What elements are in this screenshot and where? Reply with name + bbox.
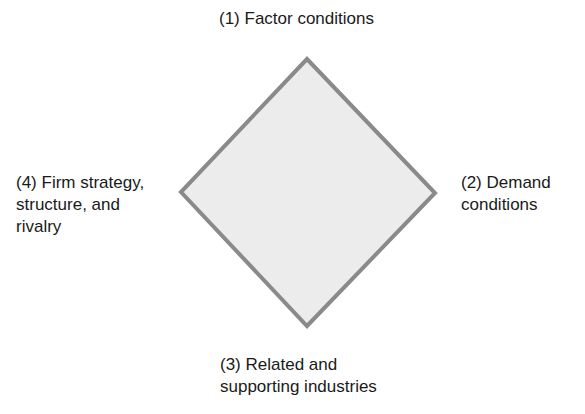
firm-strategy-line3: rivalry — [16, 216, 144, 238]
diamond-shape — [181, 59, 435, 326]
firm-strategy-label: (4) Firm strategy, structure, and rivalr… — [16, 172, 144, 238]
firm-strategy-line1: (4) Firm strategy, — [16, 172, 144, 194]
demand-conditions-line1: (2) Demand — [461, 172, 551, 194]
demand-conditions-label: (2) Demand conditions — [461, 172, 551, 216]
factor-conditions-line1: (1) Factor conditions — [219, 8, 374, 30]
firm-strategy-line2: structure, and — [16, 194, 144, 216]
demand-conditions-line2: conditions — [461, 194, 551, 216]
related-industries-line2: supporting industries — [220, 376, 377, 398]
related-industries-label: (3) Related and supporting industries — [220, 354, 377, 398]
related-industries-line1: (3) Related and — [220, 354, 377, 376]
factor-conditions-label: (1) Factor conditions — [219, 8, 374, 30]
